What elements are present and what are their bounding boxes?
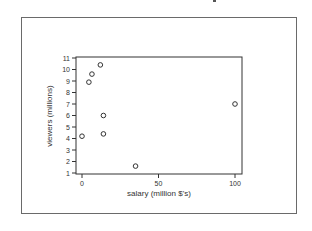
y-tick-label: 9 (66, 78, 70, 85)
y-tick-label: 6 (66, 112, 70, 119)
y-axis-label: viewers (millions) (45, 85, 54, 147)
x-tick-label: 0 (80, 180, 84, 187)
x-tick-label: 100 (229, 180, 241, 187)
y-tick-label: 1 (66, 170, 70, 177)
y-tick-label: 10 (62, 66, 70, 73)
y-tick-label: 8 (66, 89, 70, 96)
y-tick-label: 4 (66, 135, 70, 142)
data-point (87, 80, 92, 85)
y-tick-label: 3 (66, 147, 70, 154)
y-tick-label: 7 (66, 101, 70, 108)
data-point (233, 102, 238, 107)
scatter-chart: 1234567891011 050100 salary (million $'s… (0, 0, 312, 231)
data-point (101, 113, 106, 118)
data-point (80, 134, 85, 139)
data-point (90, 72, 95, 77)
x-tick-label: 50 (155, 180, 163, 187)
data-point (101, 132, 106, 137)
x-axis-label: salary (million $'s) (127, 189, 191, 198)
data-point (98, 63, 103, 68)
y-tick-label: 2 (66, 158, 70, 165)
data-points (80, 63, 238, 169)
data-point (133, 164, 138, 169)
x-axis: 050100 (80, 174, 241, 187)
y-tick-label: 5 (66, 124, 70, 131)
y-tick-label: 11 (63, 55, 70, 62)
y-axis: 1234567891011 (62, 55, 76, 177)
